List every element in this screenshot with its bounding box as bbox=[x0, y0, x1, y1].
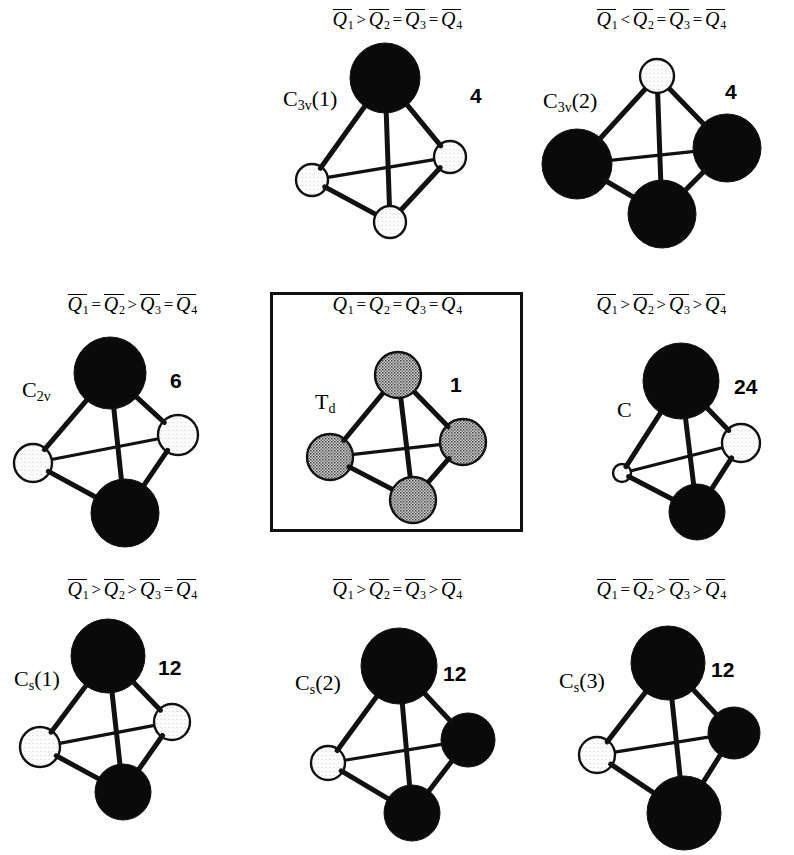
bond-left-right bbox=[343, 744, 443, 760]
bonds-front bbox=[320, 104, 440, 215]
point-group-main: C bbox=[543, 88, 558, 113]
bonds-back bbox=[50, 407, 160, 480]
bond-left-front bbox=[606, 181, 634, 198]
bond-apex-left bbox=[344, 392, 385, 441]
vertex-sphere-bottom-front bbox=[628, 180, 696, 248]
point-group-suffix: (1) bbox=[312, 86, 338, 111]
bond-left-right bbox=[326, 159, 435, 177]
point-group-label: Cs(2) bbox=[295, 670, 341, 698]
multiplicity-count: 4 bbox=[470, 84, 482, 108]
bond-apex-front bbox=[401, 396, 411, 478]
bond-apex-front bbox=[658, 92, 661, 182]
bond-right-front bbox=[428, 760, 452, 792]
vertex-sphere-apex bbox=[631, 626, 705, 700]
point-group-suffix: (2) bbox=[572, 88, 598, 113]
bonds-front bbox=[344, 390, 449, 490]
point-group-label: C2v bbox=[22, 377, 51, 405]
tetrahedron-diagram bbox=[0, 285, 265, 570]
bond-apex-right bbox=[133, 682, 161, 711]
multiplicity-count: 4 bbox=[725, 80, 737, 104]
bonds-back bbox=[343, 702, 443, 786]
bond-apex-right bbox=[668, 87, 705, 125]
symmetry-panel-c3v2: Q1<Q2=Q3=Q4C3v(2)4 bbox=[529, 0, 794, 285]
point-group-main: C bbox=[283, 86, 298, 111]
vertex-sphere-apex bbox=[643, 343, 719, 419]
point-group-suffix: (2) bbox=[315, 670, 341, 695]
vertex-sphere-left bbox=[311, 746, 345, 780]
symmetry-panel-c3v1: Q1>Q2=Q3=Q4C3v(1)4 bbox=[265, 0, 530, 285]
point-group-label: C bbox=[617, 397, 632, 423]
point-group-suffix: (1) bbox=[34, 666, 60, 691]
bond-right-front bbox=[400, 168, 440, 212]
multiplicity-count: 12 bbox=[158, 656, 181, 680]
tetrahedron-diagram bbox=[265, 0, 530, 285]
multiplicity-count: 24 bbox=[734, 375, 757, 399]
tetrahedron-diagram bbox=[0, 570, 265, 855]
bond-right-front bbox=[427, 458, 449, 483]
vertex-sphere-apex bbox=[350, 43, 420, 113]
bond-left-front bbox=[48, 471, 96, 497]
bond-apex-front bbox=[402, 702, 410, 786]
vertex-sphere-bottom-front bbox=[390, 477, 436, 523]
point-group-main: C bbox=[617, 397, 632, 422]
bond-apex-right bbox=[406, 104, 441, 146]
bond-apex-right bbox=[136, 396, 165, 422]
tetrahedron-diagram bbox=[265, 285, 530, 570]
point-group-main: C bbox=[14, 666, 29, 691]
bond-apex-left bbox=[337, 696, 377, 751]
vertex-sphere-bottom-front bbox=[95, 764, 151, 820]
bonds-front bbox=[44, 396, 167, 497]
bond-left-right bbox=[351, 444, 441, 454]
symmetry-panel-c2v: Q1=Q2>Q3=Q4C2v6 bbox=[0, 285, 265, 570]
point-group-label: Cs(1) bbox=[14, 666, 60, 694]
multiplicity-count: 12 bbox=[711, 658, 734, 682]
symmetry-classification-figure: Q1>Q2=Q3=Q4C3v(1)4Q1<Q2=Q3=Q4C3v(2)4Q1=Q… bbox=[0, 0, 794, 855]
vertex-sphere-left bbox=[20, 727, 60, 767]
point-group-label: C3v(1) bbox=[283, 86, 337, 114]
bond-left-front bbox=[349, 467, 394, 490]
bond-apex-front bbox=[672, 698, 680, 777]
multiplicity-count: 6 bbox=[170, 369, 182, 393]
vertex-sphere-apex bbox=[361, 628, 437, 704]
bond-apex-left bbox=[320, 105, 365, 168]
bond-apex-front bbox=[386, 112, 389, 208]
spheres-front bbox=[71, 619, 151, 820]
multiplicity-count: 12 bbox=[443, 662, 466, 686]
tetrahedron-diagram bbox=[265, 570, 530, 855]
bond-left-right bbox=[50, 439, 160, 460]
multiplicity-count: 1 bbox=[450, 373, 462, 397]
point-group-label: Cs(3) bbox=[559, 668, 605, 696]
symmetry-panel-cs1: Q1>Q2>Q3=Q4Cs(1)12 bbox=[0, 570, 265, 855]
tetrahedron-diagram bbox=[529, 0, 794, 285]
bond-right-front bbox=[703, 754, 721, 783]
point-group-subscript: 3v bbox=[558, 100, 572, 115]
bond-apex-left bbox=[600, 88, 647, 140]
point-group-subscript: 2v bbox=[37, 389, 51, 404]
bond-right-front bbox=[711, 458, 731, 490]
point-group-main: C bbox=[22, 377, 37, 402]
bonds-front bbox=[607, 689, 721, 794]
bond-apex-left bbox=[44, 399, 87, 450]
bonds-back bbox=[629, 417, 724, 486]
bond-left-front bbox=[56, 756, 99, 780]
spheres-front bbox=[361, 628, 440, 841]
bond-left-front bbox=[341, 771, 389, 800]
bond-left-front bbox=[629, 477, 674, 500]
point-group-subscript: 3v bbox=[298, 98, 312, 113]
vertex-sphere-bottom-front bbox=[647, 776, 721, 850]
point-group-main: T bbox=[315, 389, 328, 414]
bond-apex-right bbox=[413, 390, 448, 426]
point-group-main: C bbox=[559, 668, 574, 693]
bond-apex-right bbox=[692, 689, 717, 715]
bond-apex-right bbox=[424, 693, 451, 722]
bond-apex-front bbox=[112, 691, 120, 765]
point-group-subscript: d bbox=[328, 401, 335, 416]
point-group-suffix: (3) bbox=[579, 668, 605, 693]
point-group-label: Td bbox=[315, 389, 335, 417]
tetrahedron-diagram bbox=[529, 570, 794, 855]
symmetry-panel-cs2: Q1>Q2=Q3>Q4Cs(2)12 bbox=[265, 570, 530, 855]
bond-apex-front bbox=[685, 417, 693, 486]
tetrahedron-diagram bbox=[529, 285, 794, 570]
vertex-sphere-apex bbox=[74, 337, 146, 409]
bonds-back bbox=[613, 698, 710, 777]
